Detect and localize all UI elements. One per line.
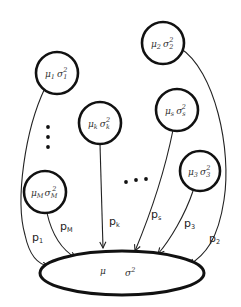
svg-text:μsσs2: μsσs2 — [165, 103, 186, 118]
node-M: μMσM2 — [24, 171, 66, 213]
node-k: μkσk2 — [79, 102, 121, 144]
vertical-ellipsis — [46, 125, 50, 149]
mixture-diagram: μ σ2 μ1σ12 μ2σ22 μkσk2 μsσs2 μ3σ32 μMσM2… — [0, 0, 241, 307]
label-ps: ps — [151, 208, 162, 222]
label-p3: p3 — [184, 217, 195, 231]
node-3: μ3σ32 — [180, 151, 220, 191]
label-pM: pM — [60, 220, 73, 234]
label-pk: pk — [109, 215, 120, 229]
node-s: μsσs2 — [156, 89, 198, 131]
edge-k — [100, 144, 103, 248]
svg-text:μ1σ12: μ1σ12 — [45, 66, 67, 81]
target-mu: μ — [100, 266, 106, 276]
node-2: μ2σ22 — [142, 22, 184, 64]
edge-s — [135, 130, 173, 251]
target-ellipse — [40, 251, 204, 295]
label-p1: p1 — [32, 231, 43, 245]
label-p2: p2 — [209, 232, 220, 246]
svg-text:μMσM2: μMσM2 — [31, 185, 58, 200]
svg-text:μkσk2: μkσk2 — [88, 116, 110, 131]
edge-labels: p1 p2 pk ps p3 pM — [32, 208, 220, 246]
node-1: μ1σ12 — [36, 52, 78, 94]
target-distribution: μ σ2 — [40, 251, 204, 295]
horizontal-ellipsis — [124, 177, 148, 184]
svg-text:μ2σ22: μ2σ22 — [151, 36, 173, 51]
svg-text:μ3σ32: μ3σ32 — [188, 164, 210, 179]
